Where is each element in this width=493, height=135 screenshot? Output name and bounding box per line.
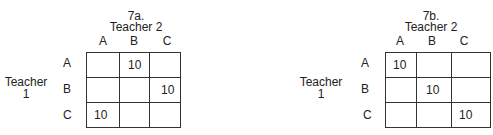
col-label: B <box>428 34 436 48</box>
cell <box>386 103 417 128</box>
cell <box>87 53 120 78</box>
col-header: Teacher 2 <box>110 20 163 34</box>
col-label: C <box>460 34 469 48</box>
cell <box>120 103 150 128</box>
row-label: C <box>63 108 72 122</box>
cell <box>452 78 491 103</box>
row-label: B <box>361 82 369 96</box>
matrix: 10 10 10 <box>86 52 181 128</box>
cell <box>120 78 150 103</box>
col-header: Teacher 2 <box>405 20 458 34</box>
row-header-number: 1 <box>23 87 30 101</box>
col-label: C <box>163 34 172 48</box>
col-label: A <box>396 34 404 48</box>
cell <box>452 53 491 78</box>
row-label: C <box>363 108 372 122</box>
cell <box>87 78 120 103</box>
row-label: B <box>63 82 71 96</box>
cell <box>417 103 452 128</box>
cell: 10 <box>417 78 452 103</box>
row-header-number: 1 <box>318 87 325 101</box>
cell <box>386 78 417 103</box>
cell: 10 <box>87 103 120 128</box>
cell: 10 <box>120 53 150 78</box>
row-label: A <box>361 56 369 70</box>
cell: 10 <box>452 103 491 128</box>
col-label: A <box>99 34 107 48</box>
col-label: B <box>130 34 138 48</box>
matrix: 10 10 10 <box>385 52 491 128</box>
cell <box>150 53 181 78</box>
cell: 10 <box>386 53 417 78</box>
cell: 10 <box>150 78 181 103</box>
row-label: A <box>63 56 71 70</box>
cell <box>417 53 452 78</box>
cell <box>150 103 181 128</box>
